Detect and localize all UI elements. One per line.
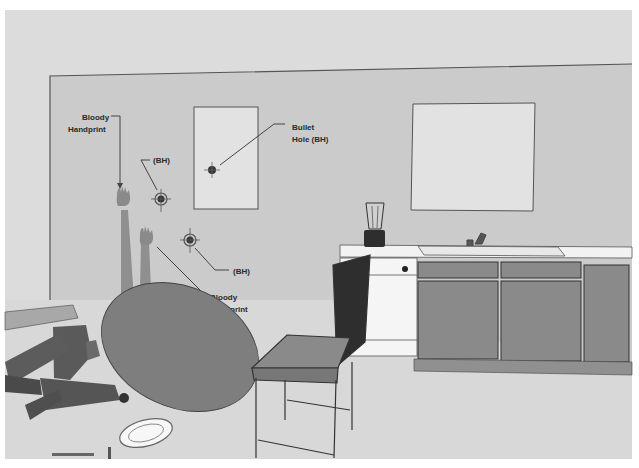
window-left: [194, 107, 258, 209]
label-bullet-hole-line1: Bullet: [292, 123, 315, 132]
dishwasher-knob-icon: [402, 266, 408, 272]
sink: [418, 246, 565, 256]
label-bullet-hole-line2: Hole (BH): [292, 135, 329, 144]
label-bh-upper: (BH): [153, 156, 170, 165]
label-bloody-handprint-1-line2: Handprint: [68, 125, 106, 134]
knife: [52, 453, 94, 456]
label-bloody-handprint-1-line1: Bloody: [82, 113, 110, 122]
label-bh-lower: (BH): [233, 267, 250, 276]
fork: [108, 447, 111, 459]
crime-scene-diagram: Bloody Handprint (BH) Bullet Hole (BH) (…: [0, 0, 639, 468]
window-right: [411, 103, 535, 211]
